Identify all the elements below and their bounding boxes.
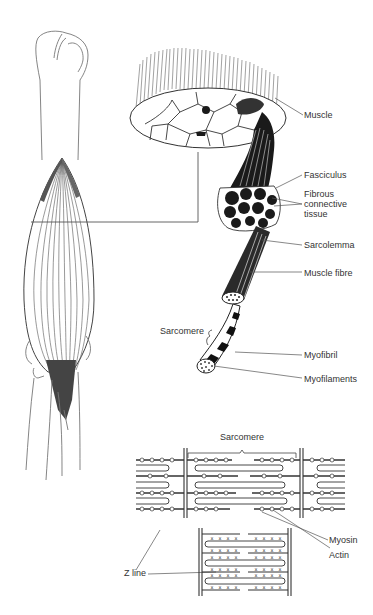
svg-text:x: x: [211, 572, 214, 578]
label-sarcomere-top: Sarcomere: [160, 326, 204, 336]
svg-text:x: x: [235, 547, 238, 553]
svg-text:x: x: [219, 554, 222, 560]
svg-text:x: x: [271, 535, 274, 541]
svg-text:x: x: [227, 572, 230, 578]
label-z-line: Z line: [124, 568, 146, 578]
svg-text:x: x: [271, 584, 274, 590]
label-fibrous-2: connective: [304, 199, 347, 209]
svg-text:x: x: [279, 554, 282, 560]
biceps-muscle: [24, 158, 94, 420]
label-myofibril: Myofibril: [304, 350, 338, 360]
svg-text:x: x: [219, 584, 222, 590]
label-myofilaments: Myofilaments: [304, 374, 357, 384]
svg-text:x: x: [227, 584, 230, 590]
svg-text:x: x: [211, 584, 214, 590]
svg-text:x: x: [235, 554, 238, 560]
humerus-bone: [36, 31, 88, 160]
svg-text:x: x: [235, 584, 238, 590]
label-sarcomere-bottom: Sarcomere: [220, 432, 264, 442]
svg-text:x: x: [235, 535, 238, 541]
svg-text:x: x: [227, 554, 230, 560]
svg-text:x: x: [211, 547, 214, 553]
svg-text:x: x: [255, 584, 258, 590]
svg-text:x: x: [263, 572, 266, 578]
svg-text:x: x: [271, 572, 274, 578]
svg-text:x: x: [263, 554, 266, 560]
svg-text:x: x: [211, 535, 214, 541]
svg-text:x: x: [219, 547, 222, 553]
muscle-fibre: [222, 226, 270, 304]
sarcomere-diagram: xxxx xxxx xxxx xxxx xxxx xxxx xxxx xxxx …: [136, 448, 345, 596]
label-sarcolemma: Sarcolemma: [304, 240, 355, 250]
svg-text:x: x: [279, 535, 282, 541]
svg-text:x: x: [219, 572, 222, 578]
label-fasciculus: Fasciculus: [304, 170, 347, 180]
svg-text:x: x: [271, 547, 274, 553]
svg-text:x: x: [255, 547, 258, 553]
svg-text:x: x: [211, 554, 214, 560]
label-myosin: Myosin: [329, 535, 358, 545]
label-fibrous-3: tissue: [304, 209, 328, 219]
svg-text:x: x: [227, 547, 230, 553]
label-actin: Actin: [329, 550, 349, 560]
svg-text:x: x: [263, 535, 266, 541]
svg-text:x: x: [255, 572, 258, 578]
svg-text:x: x: [279, 572, 282, 578]
svg-text:x: x: [219, 535, 222, 541]
svg-text:x: x: [263, 584, 266, 590]
svg-text:x: x: [255, 554, 258, 560]
svg-text:x: x: [235, 572, 238, 578]
myofibril: [197, 304, 240, 373]
svg-text:x: x: [271, 554, 274, 560]
svg-text:x: x: [255, 535, 258, 541]
svg-text:x: x: [227, 535, 230, 541]
label-muscle: Muscle: [304, 110, 333, 120]
svg-text:x: x: [279, 547, 282, 553]
muscle-structure-diagram: xxxx xxxx xxxx xxxx xxxx xxxx xxxx xxxx …: [0, 0, 373, 615]
label-fibrous-1: Fibrous: [304, 189, 334, 199]
svg-text:x: x: [279, 584, 282, 590]
svg-text:x: x: [263, 547, 266, 553]
label-muscle-fibre: Muscle fibre: [304, 268, 353, 278]
